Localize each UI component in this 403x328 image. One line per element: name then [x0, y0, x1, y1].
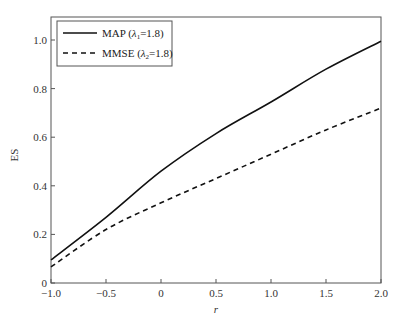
x-tick-label: −1.0: [41, 287, 61, 299]
series-mmse-line: [51, 108, 381, 267]
y-tick-label: 0.6: [33, 131, 47, 143]
x-tick-label: 2.0: [374, 287, 388, 299]
legend-entry-mmse: MMSE (λ2=1.8): [102, 47, 173, 61]
y-axis: 00.20.40.60.81.0: [33, 34, 55, 289]
y-axis-label: ES: [8, 149, 20, 162]
x-axis-label: r: [214, 303, 219, 315]
legend-entry-map: MAP (λ1=1.8): [102, 27, 164, 41]
x-tick-label: 0.5: [209, 287, 223, 299]
x-tick-label: −0.5: [96, 287, 116, 299]
y-tick-label: 0.8: [33, 83, 47, 95]
x-tick-label: 1.0: [264, 287, 278, 299]
x-tick-label: 0: [158, 287, 164, 299]
x-tick-label: 1.5: [319, 287, 333, 299]
legend: MAP (λ1=1.8) MMSE (λ2=1.8): [57, 21, 173, 66]
y-tick-label: 0.4: [33, 180, 47, 192]
series-map-line: [51, 41, 381, 260]
line-chart: 00.20.40.60.81.0 −1.0−0.500.51.01.52.0 E…: [0, 0, 403, 328]
x-axis: −1.0−0.500.51.01.52.0: [41, 279, 388, 299]
y-tick-label: 0.2: [33, 228, 47, 240]
y-tick-label: 1.0: [33, 34, 47, 46]
series-lines: [51, 41, 381, 267]
